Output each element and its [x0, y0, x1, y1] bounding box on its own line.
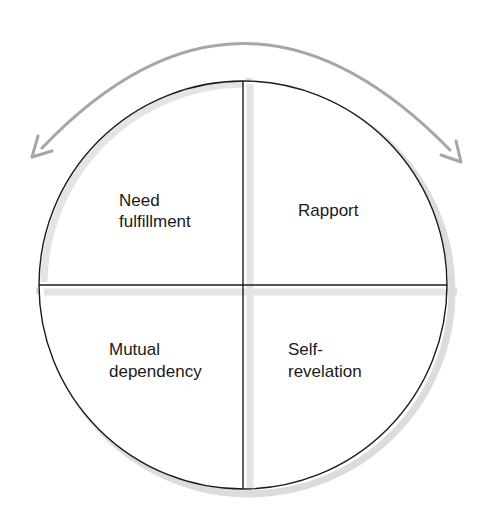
wheel-diagram: Need fulfillment Rapport Mutual dependen… — [0, 0, 481, 520]
quadrant-label-rapport: Rapport — [298, 201, 359, 220]
